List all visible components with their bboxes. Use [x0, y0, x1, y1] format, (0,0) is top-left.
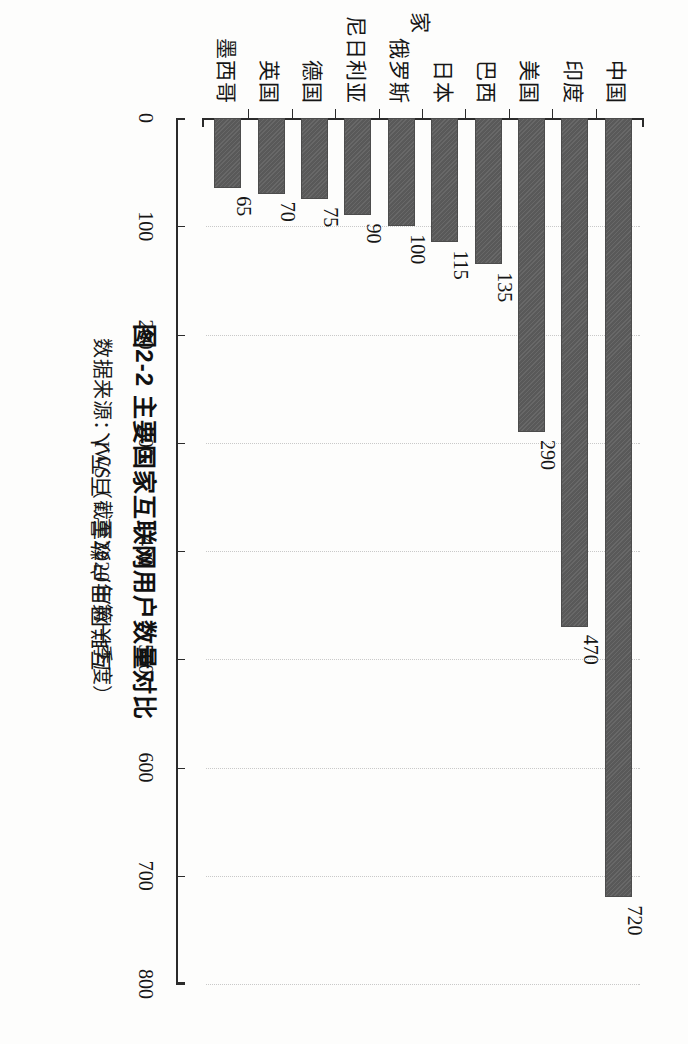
category-axis-cap-top [642, 118, 644, 127]
plot-area: 0100200300400500600700800720中国470印度290美国… [206, 118, 640, 984]
figure-title: 图2-2 主要国家互联网用户数量对比 [129, 0, 164, 1044]
value-axis-tick [176, 335, 185, 336]
bar [518, 118, 545, 432]
bar [344, 118, 371, 215]
bar-value-label: 470 [579, 635, 602, 665]
page-background: 0100200300400500600700800720中国470印度290美国… [0, 0, 688, 1044]
category-label: 巴西 [473, 60, 503, 104]
category-axis-cap-bottom [202, 118, 204, 127]
bar-value-label: 70 [275, 202, 298, 222]
category-label: 日本 [430, 60, 460, 104]
bar-value-label: 75 [318, 207, 341, 227]
value-axis-tick [176, 551, 185, 552]
category-axis-title: 国 家 [407, 0, 437, 39]
bar [258, 118, 285, 194]
gridline [206, 876, 640, 877]
bar-chart: 0100200300400500600700800720中国470印度290美国… [188, 0, 688, 1044]
category-axis-tick [465, 109, 466, 118]
category-axis-tick [292, 109, 293, 118]
value-axis-tick [176, 876, 185, 877]
bar [475, 118, 502, 264]
category-axis-tick [379, 109, 380, 118]
category-label: 墨西哥 [213, 38, 243, 104]
category-label: 德国 [300, 60, 330, 104]
value-axis-tick [176, 118, 185, 119]
bar-value-label: 65 [232, 196, 255, 216]
bar [214, 118, 241, 188]
category-label: 英国 [256, 60, 286, 104]
category-axis-tick [248, 109, 249, 118]
gridline [206, 768, 640, 769]
bar [301, 118, 328, 199]
bar [561, 118, 588, 627]
value-axis-tick [176, 659, 185, 660]
category-label: 中国 [603, 60, 633, 104]
category-axis-tick [422, 109, 423, 118]
value-axis-tick [176, 226, 185, 227]
value-axis-tick [176, 443, 185, 444]
bar-value-label: 135 [492, 272, 515, 302]
category-label: 印度 [560, 60, 590, 104]
bar-value-label: 100 [405, 234, 428, 264]
bar-value-label: 90 [362, 223, 385, 243]
value-axis-tick [176, 984, 185, 985]
bar-value-label: 720 [622, 905, 645, 935]
value-axis-tick [176, 768, 185, 769]
category-axis-tick [509, 109, 510, 118]
bar [431, 118, 458, 242]
gridline [206, 984, 640, 985]
rotated-figure: 0100200300400500600700800720中国470印度290美国… [0, 0, 688, 1044]
category-label: 美国 [517, 60, 547, 104]
category-axis-tick [596, 109, 597, 118]
figure-source: 数据来源：IWS（截至2020年第一季度） [89, 0, 118, 1044]
category-label: 俄罗斯 [386, 38, 416, 104]
bar [605, 118, 632, 897]
gridline [206, 659, 640, 660]
bar-value-label: 115 [449, 250, 472, 279]
bar-value-label: 290 [535, 440, 558, 470]
category-axis-tick [552, 109, 553, 118]
bar [388, 118, 415, 226]
category-axis-tick [335, 109, 336, 118]
category-label: 尼日利亚 [343, 16, 373, 104]
